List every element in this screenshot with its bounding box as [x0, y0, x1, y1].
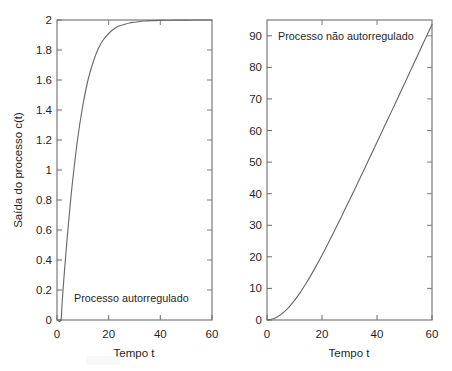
scan-artifact [86, 356, 120, 365]
right-y-tickmarks-mirror [427, 36, 432, 289]
chart-panel-right: 90 80 70 60 50 40 30 20 10 0 0 20 40 60 … [226, 0, 452, 371]
right-ytick-label-50: 50 [249, 156, 262, 168]
right-ytick-label-20: 20 [249, 251, 262, 263]
left-x-tickmarks [57, 20, 212, 320]
right-ytick-label-70: 70 [249, 93, 262, 105]
left-ytick-label-2: 2 [46, 14, 52, 26]
left-axes-frame [57, 20, 212, 320]
right-xtick-label-20: 20 [316, 328, 329, 340]
left-data-curve [57, 20, 212, 321]
left-plot-annotation: Processo autorregulado [74, 292, 189, 304]
left-ytick-label-0p2: 0.2 [36, 284, 52, 296]
left-xtick-label-60: 60 [206, 328, 219, 340]
left-yaxis-title: Saída do processo c(t) [12, 112, 24, 228]
left-ytick-label-1p2: 1.2 [36, 134, 52, 146]
right-xtick-label-0: 0 [264, 328, 270, 340]
left-ytick-label-1p4: 1.4 [36, 104, 53, 116]
right-data-curve [267, 24, 432, 320]
left-ytick-label-0p6: 0.6 [36, 224, 52, 236]
left-ytick-label-0: 0 [46, 314, 52, 326]
left-y-tickmarks [57, 20, 62, 320]
left-y-tickmarks-mirror [207, 50, 212, 290]
right-ytick-label-30: 30 [249, 219, 262, 231]
right-plot-annotation: Processo não autorregulado [278, 30, 414, 42]
right-axes-frame [267, 20, 432, 320]
right-ytick-label-60: 60 [249, 125, 262, 137]
right-xtick-label-40: 40 [371, 328, 384, 340]
left-xtick-label-0: 0 [54, 328, 60, 340]
right-ytick-label-80: 80 [249, 61, 262, 73]
left-ytick-label-1p8: 1.8 [36, 44, 52, 56]
left-ytick-label-0p8: 0.8 [36, 194, 52, 206]
right-xaxis-title: Tempo t [329, 347, 371, 359]
right-ytick-label-0: 0 [256, 314, 262, 326]
left-ytick-label-1: 1 [46, 164, 52, 176]
left-ytick-label-1p6: 1.6 [36, 74, 52, 86]
left-xtick-label-40: 40 [154, 328, 167, 340]
right-plot-svg: 90 80 70 60 50 40 30 20 10 0 0 20 40 60 … [226, 0, 452, 371]
right-y-tickmarks [267, 36, 272, 320]
left-xtick-label-20: 20 [102, 328, 115, 340]
figure-container: 2 1.8 1.6 1.4 1.2 1 0.8 0.6 0.4 0.2 0 0 … [0, 0, 452, 371]
right-xtick-label-60: 60 [426, 328, 439, 340]
right-ytick-label-10: 10 [249, 282, 262, 294]
right-ytick-label-90: 90 [249, 30, 262, 42]
chart-panel-left: 2 1.8 1.6 1.4 1.2 1 0.8 0.6 0.4 0.2 0 0 … [0, 0, 226, 371]
left-ytick-label-0p4: 0.4 [36, 254, 53, 266]
right-x-tickmarks [267, 20, 432, 320]
right-ytick-label-40: 40 [249, 188, 262, 200]
left-plot-svg: 2 1.8 1.6 1.4 1.2 1 0.8 0.6 0.4 0.2 0 0 … [0, 0, 226, 371]
